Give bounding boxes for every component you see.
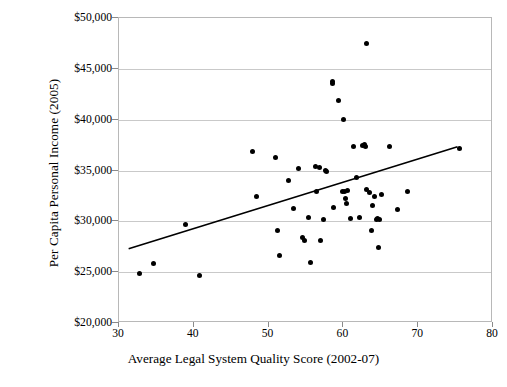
x-axis-tick-labels: 304050607080 [0,0,507,387]
scatter-chart-figure: Per Capita Personal Income (2005) $20,00… [0,0,507,387]
x-tick-label-30: 30 [98,327,138,340]
x-axis-title: Average Legal System Quality Score (2002… [0,351,507,367]
x-tick-label-80: 80 [472,327,507,340]
x-tick-label-60: 60 [322,327,362,340]
x-tick-label-70: 70 [397,327,437,340]
x-tick-label-50: 50 [248,327,288,340]
x-tick-label-40: 40 [173,327,213,340]
